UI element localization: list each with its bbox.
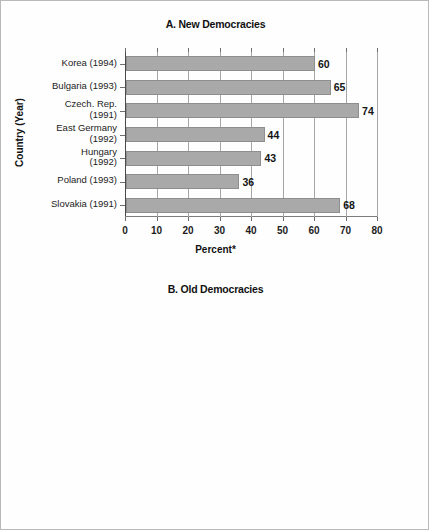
x-axis-tick [157, 48, 158, 52]
x-axis-tick [188, 217, 189, 221]
bar [126, 174, 239, 189]
x-axis-tick [125, 217, 126, 221]
bar [126, 103, 359, 118]
y-axis-tick [120, 158, 125, 159]
x-axis-tick [125, 48, 126, 52]
bar-value-label: 36 [242, 176, 254, 188]
bar [126, 80, 331, 95]
y-axis-tick [120, 182, 125, 183]
x-axis-tick [346, 217, 347, 221]
y-axis-category-label: Czech. Rep. (1991) [21, 99, 117, 120]
x-axis-tick-label: 80 [371, 225, 382, 236]
chart-a-x-axis-title: Percent* [1, 244, 429, 255]
x-axis-tick [377, 48, 378, 52]
gridline [283, 52, 284, 217]
chart-a-title: A. New Democracies [1, 18, 429, 30]
y-axis-tick [120, 205, 125, 206]
gridline [377, 52, 378, 217]
y-axis-category-label: Hungary (1992) [21, 147, 117, 168]
bar-value-label: 65 [334, 81, 346, 93]
y-axis-category-label: Bulgaria (1993) [21, 81, 117, 92]
y-axis-tick [120, 87, 125, 88]
chart-panel-new-democracies: A. New Democracies Country (Year) Percen… [1, 1, 429, 269]
y-axis-category-label: Korea (1994) [21, 58, 117, 69]
y-axis-tick [120, 135, 125, 136]
bar-value-label: 43 [264, 152, 276, 164]
x-axis-tick [283, 48, 284, 52]
y-axis-category-label: Slovakia (1991) [21, 199, 117, 210]
x-axis-tick-label: 70 [340, 225, 351, 236]
x-axis-tick [346, 48, 347, 52]
x-axis-tick [377, 217, 378, 221]
bar [126, 127, 265, 142]
x-axis-tick [188, 48, 189, 52]
bar [126, 151, 261, 166]
gridline [346, 52, 347, 217]
y-axis-category-label: East Germany (1992) [21, 123, 117, 144]
x-axis-tick [283, 217, 284, 221]
x-axis-tick [220, 48, 221, 52]
y-axis-tick [120, 64, 125, 65]
x-axis-tick-label: 60 [308, 225, 319, 236]
x-axis-tick [251, 217, 252, 221]
chart-b-title: B. Old Democracies [1, 283, 429, 295]
gridline [314, 52, 315, 217]
bar [126, 56, 315, 71]
bar-value-label: 74 [362, 105, 374, 117]
x-axis-tick-label: 30 [214, 225, 225, 236]
x-axis-tick-label: 20 [182, 225, 193, 236]
bar [126, 198, 340, 213]
y-axis-tick [120, 111, 125, 112]
x-axis-tick [220, 217, 221, 221]
figure-container: A. New Democracies Country (Year) Percen… [0, 0, 429, 530]
chart-a-plot-area [125, 52, 377, 217]
x-axis-tick [314, 48, 315, 52]
bar-value-label: 44 [268, 129, 280, 141]
x-axis-tick [314, 217, 315, 221]
chart-panel-old-democracies: B. Old Democracies Country (Year) Percen… [1, 269, 429, 529]
y-axis-category-label: Poland (1993) [21, 175, 117, 186]
x-axis-tick [251, 48, 252, 52]
x-axis-tick [157, 217, 158, 221]
x-axis-tick-label: 0 [122, 225, 128, 236]
bar-value-label: 60 [318, 58, 330, 70]
bar-value-label: 68 [343, 199, 355, 211]
x-axis-tick-label: 10 [151, 225, 162, 236]
x-axis-tick-label: 40 [245, 225, 256, 236]
x-axis-tick-label: 50 [277, 225, 288, 236]
